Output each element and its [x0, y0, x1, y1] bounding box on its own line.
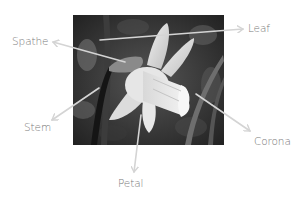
daffodil-illustration: [73, 15, 224, 145]
label-petal: Petal: [118, 178, 143, 189]
label-corona: Corona: [254, 136, 291, 147]
daffodil-photo: [73, 15, 224, 145]
label-stem: Stem: [24, 122, 51, 133]
label-spathe: Spathe: [12, 36, 48, 47]
label-leaf: Leaf: [248, 23, 270, 34]
